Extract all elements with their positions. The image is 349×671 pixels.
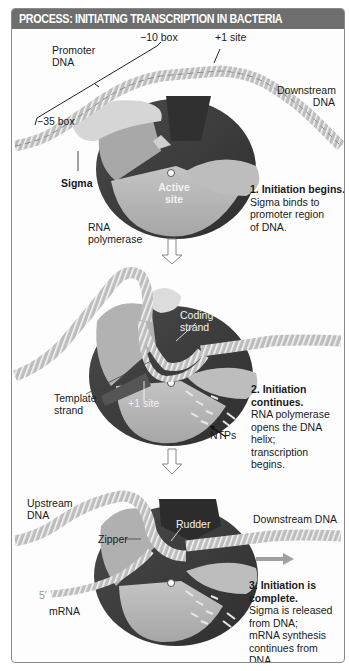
step-2-heading: 2. Initiation — [251, 383, 345, 396]
right-arrow-icon — [256, 553, 294, 565]
five-prime-label: 5′ — [39, 589, 47, 601]
rna-polymerase-label: RNApolymerase — [88, 221, 142, 245]
upstream-dna-label: UpstreamDNA — [27, 497, 73, 521]
down-arrow-icon — [162, 239, 182, 264]
rudder-label: Rudder — [176, 518, 210, 530]
diagram-frame: PROCESS: INITIATING TRANSCRIPTION IN BAC… — [11, 8, 345, 663]
promoter-dna-label: PromoterDNA — [52, 44, 95, 68]
step-3-heading: 3. Initiation is — [249, 579, 345, 592]
downstream-dna-label-3: Downstream DNA — [253, 513, 337, 525]
minus35-box-label: −35 box — [37, 115, 75, 127]
template-strand-label: Templatestrand — [54, 392, 97, 416]
step-1-heading: 1. Initiation begins. — [250, 183, 345, 196]
mrna-label: mRNA — [49, 605, 80, 617]
plus1-site-label: +1 site — [215, 31, 246, 43]
step-2-description: 2. Initiation continues. RNA polymerase … — [251, 383, 345, 471]
step-3-description: 3. Initiation is complete. Sigma is rele… — [249, 579, 345, 663]
zipper-label: Zipper — [98, 533, 128, 545]
active-site-label: Activesite — [154, 181, 194, 205]
down-arrow-icon — [162, 449, 182, 474]
plus1-site-label-2: +1 site — [128, 397, 159, 409]
coding-strand-label: Codingstrand — [180, 309, 213, 333]
step-1-description: 1. Initiation begins. Sigma binds to pro… — [250, 183, 345, 233]
sigma-label: Sigma — [61, 177, 93, 189]
minus10-box-label: −10 box — [140, 31, 178, 43]
ntps-label: NTPs — [210, 429, 236, 441]
downstream-dna-label: DownstreamDNA — [277, 84, 335, 108]
